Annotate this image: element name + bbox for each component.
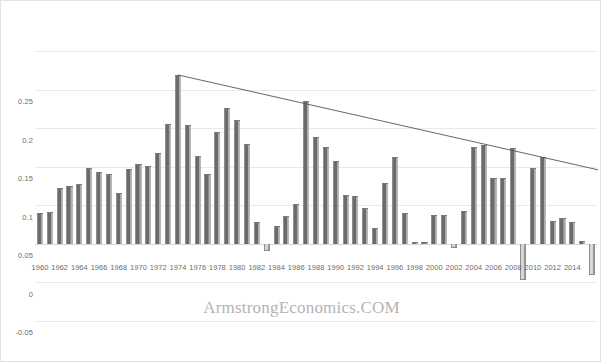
x-axis-tick-label: 1960 bbox=[31, 263, 48, 272]
bar bbox=[451, 244, 457, 249]
bar bbox=[37, 213, 43, 244]
bar bbox=[343, 195, 349, 244]
y-axis-tick-label: 0.25 bbox=[3, 97, 33, 106]
bar bbox=[559, 218, 565, 244]
x-axis-tick-label: 1982 bbox=[248, 263, 265, 272]
bar bbox=[185, 125, 191, 244]
y-axis-tick-label: 0.05 bbox=[3, 251, 33, 260]
y-axis-tick-label: 0.15 bbox=[3, 174, 33, 183]
bar bbox=[569, 222, 575, 244]
bar bbox=[362, 208, 368, 243]
gridline bbox=[35, 321, 597, 322]
bar bbox=[333, 161, 339, 244]
bar bbox=[441, 215, 447, 244]
bar bbox=[303, 101, 309, 244]
bars-layer bbox=[35, 51, 597, 321]
x-axis-tick-label: 2000 bbox=[426, 263, 443, 272]
x-axis-tick-label: 1968 bbox=[110, 263, 127, 272]
bar bbox=[47, 212, 53, 244]
x-axis-tick-label: 2002 bbox=[446, 263, 463, 272]
bar bbox=[76, 184, 82, 244]
x-axis-tick-label: 1998 bbox=[406, 263, 423, 272]
x-axis-tick-label: 1992 bbox=[347, 263, 364, 272]
bar bbox=[540, 157, 546, 244]
bar bbox=[195, 156, 201, 244]
bar bbox=[402, 213, 408, 244]
x-axis: 1960196219641966196819701972197419761978… bbox=[35, 263, 597, 279]
bar bbox=[293, 204, 299, 244]
bar bbox=[510, 148, 516, 244]
watermark-text: ArmstrongEconomics.COM bbox=[1, 298, 601, 318]
x-axis-tick-label: 1996 bbox=[386, 263, 403, 272]
bar bbox=[421, 242, 427, 244]
x-axis-tick-label: 2010 bbox=[524, 263, 541, 272]
x-axis-tick-label: 1990 bbox=[327, 263, 344, 272]
bar bbox=[155, 153, 161, 244]
x-axis-tick-label: 1980 bbox=[229, 263, 246, 272]
x-axis-tick-label: 2012 bbox=[544, 263, 561, 272]
bar bbox=[274, 226, 280, 244]
y-axis-tick-label: 0.1 bbox=[3, 212, 33, 221]
x-axis-tick-label: 2004 bbox=[465, 263, 482, 272]
x-axis-tick-label: 1986 bbox=[288, 263, 305, 272]
bar bbox=[106, 174, 112, 243]
bar bbox=[392, 157, 398, 244]
bar bbox=[313, 137, 319, 244]
x-axis-tick-label: 1984 bbox=[268, 263, 285, 272]
bar bbox=[481, 145, 487, 244]
bar bbox=[530, 168, 536, 244]
x-axis-tick-label: 1966 bbox=[91, 263, 108, 272]
bar bbox=[126, 169, 132, 244]
bar bbox=[214, 132, 220, 244]
bar bbox=[490, 178, 496, 244]
plot-area bbox=[35, 51, 597, 321]
x-axis-tick-label: 1972 bbox=[150, 263, 167, 272]
x-axis-tick-label: 2006 bbox=[485, 263, 502, 272]
y-axis: 0.250.20.150.10.050-0.05-0.1 bbox=[1, 51, 33, 321]
bar bbox=[165, 124, 171, 244]
x-axis-tick-label: 1988 bbox=[308, 263, 325, 272]
bar bbox=[86, 168, 92, 244]
y-axis-tick-label: -0.05 bbox=[3, 328, 33, 337]
x-axis-tick-label: 1970 bbox=[130, 263, 147, 272]
bar bbox=[175, 75, 181, 244]
bar bbox=[234, 120, 240, 244]
bar bbox=[96, 172, 102, 244]
bar bbox=[135, 164, 141, 243]
bar bbox=[224, 108, 230, 244]
y-axis-tick-label: 0 bbox=[3, 289, 33, 298]
bar bbox=[382, 183, 388, 244]
bar bbox=[412, 242, 418, 244]
bar bbox=[500, 178, 506, 244]
bar bbox=[550, 221, 556, 244]
bar bbox=[116, 193, 122, 244]
y-axis-tick-label: 0.2 bbox=[3, 135, 33, 144]
bar bbox=[204, 174, 210, 243]
bar bbox=[57, 188, 63, 244]
chart-container: 0.250.20.150.10.050-0.05-0.1 19601962196… bbox=[0, 0, 601, 362]
x-axis-tick-label: 2014 bbox=[564, 263, 581, 272]
x-axis-tick-label: 1962 bbox=[51, 263, 68, 272]
x-axis-tick-label: 1964 bbox=[71, 263, 88, 272]
x-axis-tick-label: 1978 bbox=[209, 263, 226, 272]
bar bbox=[323, 147, 329, 243]
x-axis-tick-label: 1994 bbox=[367, 263, 384, 272]
bar bbox=[66, 186, 72, 244]
bar bbox=[431, 215, 437, 244]
bar bbox=[283, 216, 289, 244]
bar bbox=[372, 228, 378, 243]
bar bbox=[579, 241, 585, 244]
bar bbox=[352, 196, 358, 244]
x-axis-tick-label: 2008 bbox=[505, 263, 522, 272]
bar bbox=[471, 147, 477, 244]
bar bbox=[244, 144, 250, 244]
bar bbox=[254, 222, 260, 244]
bar bbox=[461, 211, 467, 243]
x-axis-tick-label: 1974 bbox=[170, 263, 187, 272]
bar bbox=[145, 166, 151, 244]
x-axis-tick-label: 1976 bbox=[189, 263, 206, 272]
bar bbox=[264, 244, 270, 251]
